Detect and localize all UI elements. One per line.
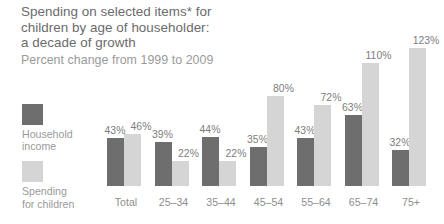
category-label: 55–64: [289, 196, 343, 208]
bar-spending-for-children[interactable]: 22%: [219, 161, 236, 186]
bar-value-label: 44%: [193, 124, 227, 136]
category-label: 35–44: [194, 196, 248, 208]
legend-item-household-income: Household income: [22, 104, 106, 152]
bar-group: 35%80%45–54: [247, 0, 291, 224]
bar-spending-for-children[interactable]: 46%: [124, 134, 141, 186]
bar-spending-for-children[interactable]: 123%: [409, 48, 426, 186]
bar-household-income[interactable]: 43%: [297, 138, 314, 186]
legend-label-spending-for-children: Spending for children: [22, 182, 106, 209]
bar-household-income[interactable]: 32%: [392, 150, 409, 186]
bar-group: 39%22%25–34: [152, 0, 196, 224]
bar-group: 43%72%55–64: [294, 0, 338, 224]
bar-spending-for-children[interactable]: 22%: [172, 161, 189, 186]
bar-value-label: 123%: [409, 35, 443, 47]
category-label: 65–74: [337, 196, 391, 208]
category-label: 45–54: [242, 196, 296, 208]
bar-spending-for-children[interactable]: 110%: [362, 63, 379, 186]
bar-household-income[interactable]: 63%: [345, 115, 362, 186]
category-label: 25–34: [147, 196, 201, 208]
bar-group: 63%110%65–74: [342, 0, 386, 224]
bar-group: 43%46%Total: [104, 0, 148, 224]
legend-label-household-income: Household income: [22, 125, 106, 152]
bar-group: 44%22%35–44: [199, 0, 243, 224]
bar-spending-for-children[interactable]: 72%: [314, 105, 331, 186]
legend-swatch-spending-for-children: [22, 161, 43, 182]
chart-plot-area: 43%46%Total39%22%25–3444%22%35–4435%80%4…: [104, 0, 444, 224]
bar-household-income[interactable]: 35%: [250, 147, 267, 186]
bar-household-income[interactable]: 44%: [202, 137, 219, 186]
bar-group: 32%123%75+: [389, 0, 433, 224]
chart-figure: Spending on selected items* for children…: [0, 0, 444, 224]
bar-spending-for-children[interactable]: 80%: [267, 96, 284, 186]
legend-swatch-household-income: [22, 104, 43, 125]
bar-household-income[interactable]: 43%: [107, 138, 124, 186]
category-label: Total: [99, 196, 153, 208]
chart-legend: Household income Spending for children: [22, 104, 106, 219]
legend-item-spending-for-children: Spending for children: [22, 161, 106, 209]
category-label: 75+: [384, 196, 438, 208]
bar-household-income[interactable]: 39%: [155, 142, 172, 186]
bar-value-label: 39%: [146, 129, 180, 141]
